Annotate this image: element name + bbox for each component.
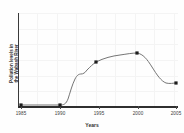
y-axis-title: Pollution levels in the Wabash River [9, 23, 20, 103]
data-point-1995 [94, 60, 97, 63]
plot-area: 1985 1990 1995 2000 2005 Pollution level… [0, 0, 184, 133]
data-point-1985 [19, 103, 22, 106]
data-line-series [0, 0, 184, 133]
data-point-2000 [135, 51, 138, 54]
data-point-2005 [174, 81, 177, 84]
x-axis-title: Years [85, 122, 98, 128]
chart-container: 1985 1990 1995 2000 2005 Pollution level… [0, 0, 184, 133]
data-point-1990 [58, 103, 61, 106]
